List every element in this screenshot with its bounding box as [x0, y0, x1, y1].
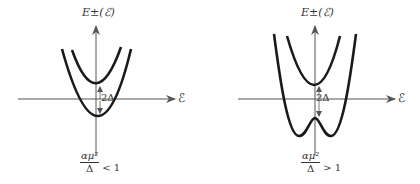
left-y-axis-label: E±(ℰ)	[82, 6, 115, 19]
left-panel	[18, 26, 175, 155]
diagram-canvas	[0, 0, 420, 184]
upper-band-curve	[287, 36, 340, 85]
left-gap-label: 2Δ	[101, 92, 115, 103]
condition-numerator: αμ²	[301, 150, 320, 163]
condition-relation: < 1	[102, 162, 120, 173]
condition-denominator: Δ	[307, 163, 314, 175]
condition-denominator: Δ	[86, 163, 93, 175]
condition-numerator: αμ²	[80, 150, 99, 163]
left-x-axis-label: ℰ	[178, 91, 185, 105]
condition-relation: > 1	[323, 162, 341, 173]
right-y-axis-label: E±(ℰ)	[301, 6, 334, 19]
right-panel	[238, 26, 395, 155]
left-condition: αμ² Δ < 1	[80, 150, 120, 175]
right-gap-label: 2Δ	[316, 92, 330, 103]
right-x-axis-label: ℰ	[398, 91, 405, 105]
right-condition: αμ² Δ > 1	[301, 150, 341, 175]
